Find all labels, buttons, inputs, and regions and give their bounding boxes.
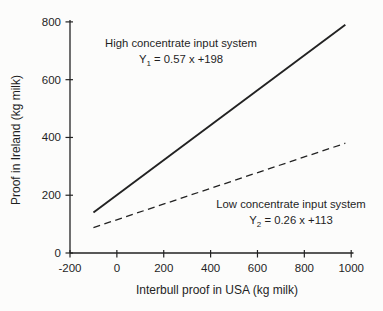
x-tick-label: -200	[58, 262, 81, 274]
x-tick-label: 600	[248, 262, 267, 274]
x-tick-label: 0	[114, 262, 120, 274]
y-tick-label: 400	[42, 131, 61, 143]
x-tick-label: 800	[295, 262, 314, 274]
series-name-high: High concentrate input system	[95, 35, 267, 51]
series-equation-high: Y1 = 0.57 x +198	[95, 51, 267, 67]
y-tick-label: 200	[42, 189, 61, 201]
series-name-low: Low concentrate input system	[203, 196, 379, 212]
x-tick-label: 200	[154, 262, 173, 274]
series-equation-low: Y2 = 0.26 x +113	[203, 212, 379, 228]
x-axis-title: Interbull proof in USA (kg milk)	[117, 283, 317, 297]
x-tick-label: 400	[201, 262, 220, 274]
equation-subscript: 1	[146, 59, 150, 68]
equation-var: Y	[249, 214, 257, 226]
equation-rhs: = 0.26 x +113	[264, 214, 332, 226]
y-tick-label: 600	[42, 74, 61, 86]
y-axis-title: Proof in Ireland (kg milk)	[9, 34, 25, 246]
x-tick-label: 1000	[338, 262, 364, 274]
equation-subscript: 2	[257, 220, 261, 229]
y-tick-label: 0	[55, 247, 61, 259]
chart-figure: -200020040060080010000200400600800 Proof…	[0, 0, 383, 311]
y-tick-label: 800	[42, 16, 61, 28]
equation-rhs: = 0.57 x +198	[154, 53, 223, 65]
series-annotation-high-concentrate: High concentrate input system Y1 = 0.57 …	[95, 35, 267, 67]
series-annotation-low-concentrate: Low concentrate input system Y2 = 0.26 x…	[203, 196, 379, 228]
